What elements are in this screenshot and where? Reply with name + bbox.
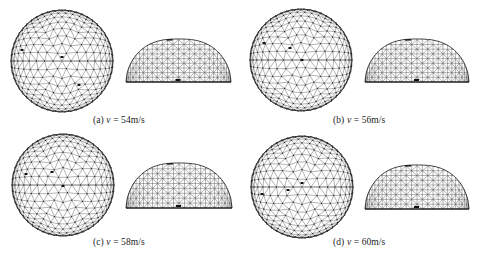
caption-variable: v <box>347 115 351 125</box>
side-view-a <box>126 39 231 82</box>
caption-label: (d) <box>333 237 344 247</box>
caption-value: 56m/s <box>362 115 386 125</box>
caption-variable: v <box>347 237 351 247</box>
caption-label: (b) <box>333 115 344 125</box>
caption-a: (a) v = 54m/s <box>93 115 145 125</box>
caption-equals: = <box>354 237 359 247</box>
top-view-d <box>250 136 353 239</box>
caption-label: (a) <box>93 115 104 125</box>
top-view-a <box>10 10 113 113</box>
side-view-b <box>365 39 469 82</box>
top-view-c <box>11 134 114 237</box>
caption-variable: v <box>106 237 110 247</box>
panel-c <box>11 134 232 237</box>
caption-c: (c) v = 58m/s <box>93 237 145 247</box>
caption-variable: v <box>106 115 110 125</box>
caption-label: (c) <box>93 237 104 247</box>
panel-b <box>249 9 469 112</box>
caption-equals: = <box>354 115 359 125</box>
panel-d <box>250 136 469 239</box>
caption-value: 58m/s <box>121 237 145 247</box>
caption-b: (b) v = 56m/s <box>333 115 385 125</box>
figure-canvas <box>0 0 477 260</box>
side-view-d <box>365 165 469 209</box>
caption-equals: = <box>113 237 118 247</box>
caption-value: 54m/s <box>121 115 145 125</box>
caption-d: (d) v = 60m/s <box>333 237 385 247</box>
caption-equals: = <box>113 115 118 125</box>
top-view-b <box>249 9 352 112</box>
caption-value: 60m/s <box>362 237 386 247</box>
panel-a <box>10 10 231 113</box>
side-view-c <box>126 163 232 208</box>
